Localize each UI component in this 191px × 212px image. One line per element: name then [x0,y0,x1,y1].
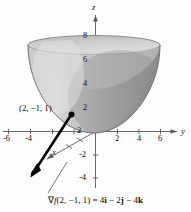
gradient-vector-shaft [34,115,71,172]
bowl-highlight [32,34,84,114]
point-marker-dot [69,112,75,118]
caption-leader-line [48,162,67,193]
y-tick-2: 2 [115,134,119,143]
z-tick-neg4: -4 [79,173,86,182]
z-tick-6: 6 [83,55,87,64]
caption-k: k [138,195,143,205]
y-axis-label: y [181,127,185,136]
figure-container: z 8 6 4 2 -2 -4 y -6 -4 2 4 6 x 2 (2, −1… [0,0,191,212]
caption-minus4: − 4 [124,195,138,205]
y-tick-6: 6 [158,134,162,143]
y-tick-neg6: -6 [3,134,10,143]
y-axis-arrow [171,129,178,134]
caption-args: (2, −1, 1) [57,195,91,205]
x-axis-label: x [52,148,56,157]
y-tick-4: 4 [137,134,141,143]
z-tick-8: 8 [83,31,87,40]
z-tick-neg2: -2 [79,150,86,159]
z-axis-arrow [93,15,98,22]
caption-minus2: − 2 [107,195,121,205]
y-tick-neg4: -4 [25,134,32,143]
point-annotation-label: (2, −1, 1) [19,104,52,113]
paraboloid-surface [28,34,172,142]
z-tick-2: 2 [83,103,87,112]
z-axis-label: z [92,3,95,12]
gradient-vector-arrow [31,112,75,178]
x-tick-2: 2 [77,126,81,135]
caption-equals: = 4 [90,195,104,205]
figure-caption: ∇f(2, −1, 1) = 4i − 2j − 4k [0,195,191,205]
z-tick-4: 4 [83,79,87,88]
